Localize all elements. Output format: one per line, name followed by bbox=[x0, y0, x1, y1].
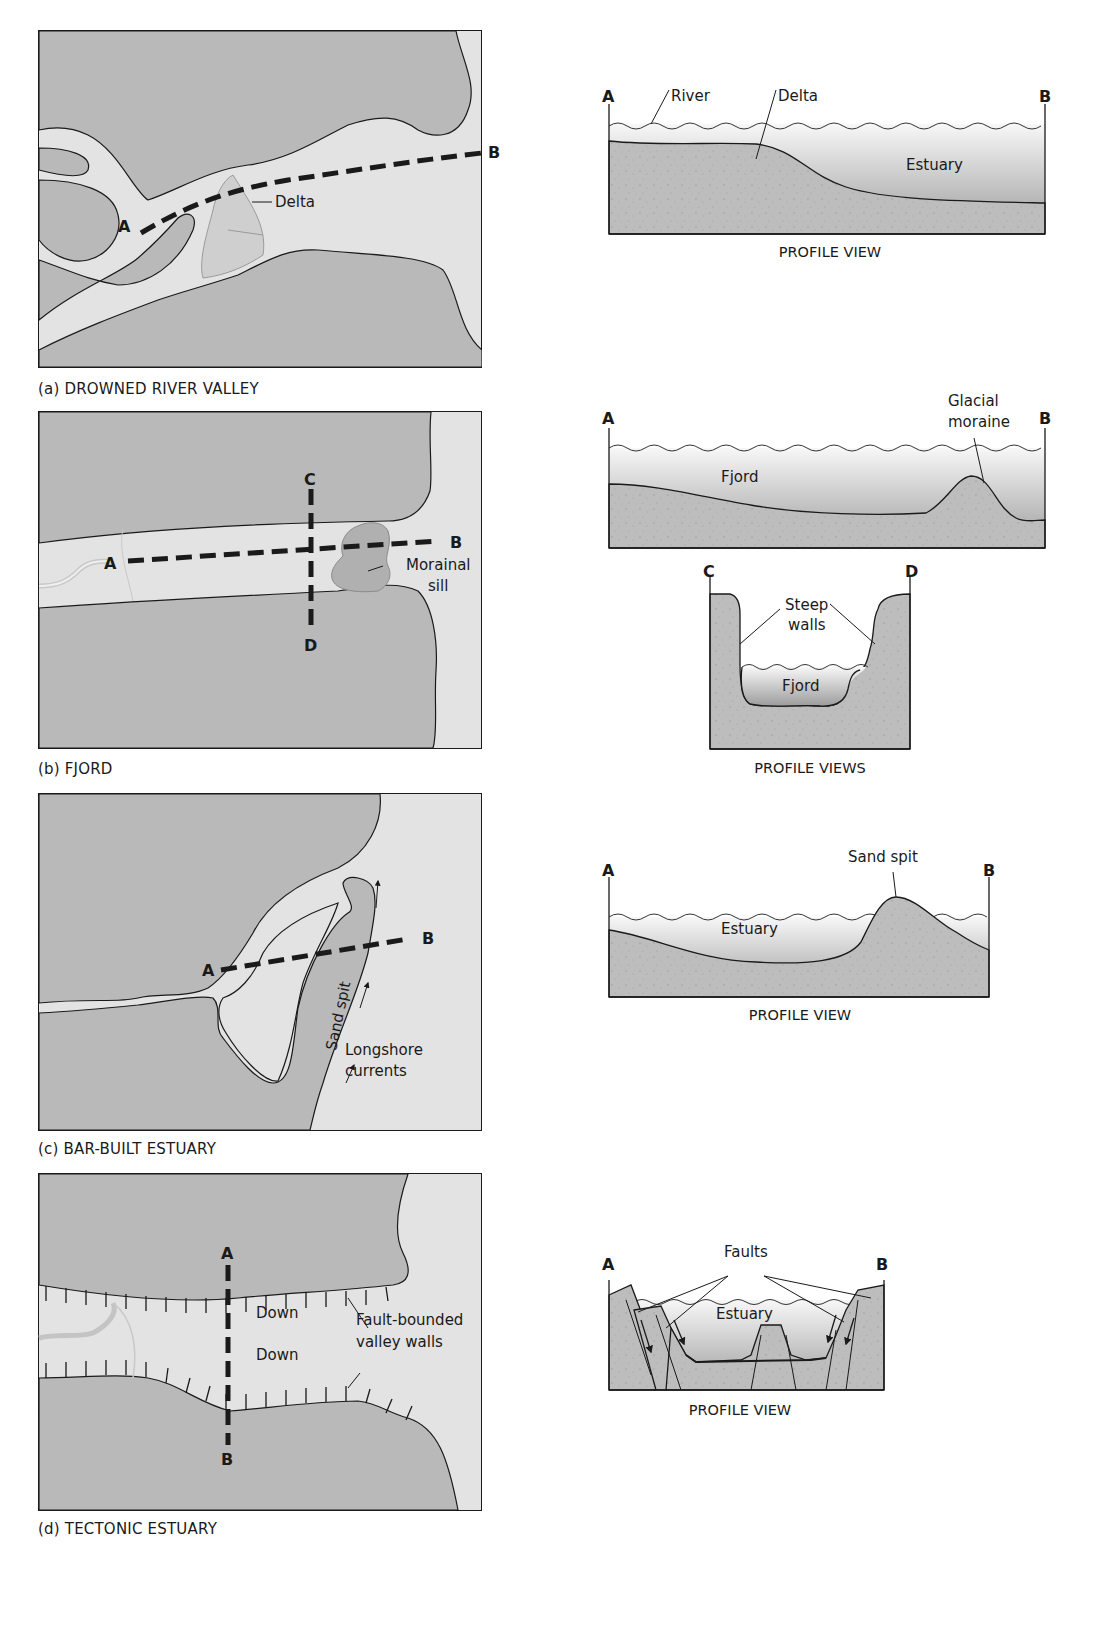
down-label-top: Down bbox=[256, 1304, 299, 1322]
profile-point-b-label: B bbox=[876, 1255, 888, 1274]
profile-delta-label: Delta bbox=[778, 87, 818, 105]
profile-point-a-label: A bbox=[602, 861, 615, 880]
fjord-profile-cd: C D Steep walls Fjord bbox=[700, 564, 930, 754]
fjord-map: A B C D Morainal sill bbox=[38, 411, 482, 749]
drowned-river-valley-profile: A B River Delta Estuary bbox=[596, 84, 1056, 244]
down-label-bottom: Down bbox=[256, 1346, 299, 1364]
bar-built-estuary-map: A B Sand spit Longshore currents bbox=[38, 793, 482, 1131]
fault-bounded-walls-label-2: valley walls bbox=[356, 1333, 443, 1351]
tectonic-estuary-profile: A B Faults Estuary bbox=[596, 1240, 896, 1395]
point-c-label: C bbox=[304, 470, 316, 489]
morainal-sill-label-2: sill bbox=[428, 577, 448, 595]
profile-point-b-label: B bbox=[1039, 87, 1051, 106]
profile-point-b-label: B bbox=[983, 861, 995, 880]
profile-point-a-label: A bbox=[602, 409, 615, 428]
estuary-label: Estuary bbox=[721, 920, 778, 938]
point-b-label: B bbox=[422, 929, 434, 948]
caption-bar-built-estuary: (c) BAR-BUILT ESTUARY bbox=[38, 1140, 216, 1158]
morainal-sill-label: Morainal bbox=[406, 556, 471, 574]
sand-spit-profile-label: Sand spit bbox=[848, 848, 918, 866]
point-d-label: D bbox=[304, 636, 317, 655]
longshore-currents-label-2: currents bbox=[345, 1062, 407, 1080]
point-a-label: A bbox=[221, 1244, 234, 1263]
profile-point-a-label: A bbox=[602, 1255, 615, 1274]
estuary-label: Estuary bbox=[716, 1305, 773, 1323]
point-b-label: B bbox=[221, 1450, 233, 1469]
point-a-label: A bbox=[118, 217, 131, 236]
steep-walls-label-2: walls bbox=[788, 616, 826, 634]
profile-caption-a: PROFILE VIEW bbox=[740, 244, 920, 260]
delta-label: Delta bbox=[275, 193, 315, 211]
profile-caption-b: PROFILE VIEWS bbox=[720, 760, 900, 776]
caption-tectonic-estuary: (d) TECTONIC ESTUARY bbox=[38, 1520, 217, 1538]
profile-caption-c: PROFILE VIEW bbox=[710, 1007, 890, 1023]
profile-caption-d: PROFILE VIEW bbox=[650, 1402, 830, 1418]
river-label: River bbox=[671, 87, 711, 105]
steep-walls-label: Steep bbox=[785, 596, 828, 614]
caption-drowned-river-valley: (a) DROWNED RIVER VALLEY bbox=[38, 380, 259, 398]
faults-label: Faults bbox=[724, 1243, 768, 1261]
fjord-profile-ab: A B Fjord Glacial moraine bbox=[596, 408, 1056, 556]
fjord-label: Fjord bbox=[721, 468, 758, 486]
estuary-label: Estuary bbox=[906, 156, 963, 174]
profile-point-b-label: B bbox=[1039, 409, 1051, 428]
point-d-label: D bbox=[905, 564, 918, 581]
fault-bounded-walls-label: Fault-bounded bbox=[356, 1311, 463, 1329]
caption-fjord: (b) FJORD bbox=[38, 760, 113, 778]
glacial-moraine-label-top: Glacial bbox=[948, 392, 999, 410]
point-b-label: B bbox=[488, 143, 500, 162]
point-a-label: A bbox=[202, 961, 215, 980]
bar-built-estuary-profile: A B Estuary Sand spit bbox=[596, 842, 996, 1002]
longshore-currents-label: Longshore bbox=[345, 1041, 423, 1059]
profile-point-a-label: A bbox=[602, 87, 615, 106]
point-c-label: C bbox=[703, 564, 715, 581]
point-b-label: B bbox=[450, 533, 462, 552]
tectonic-estuary-map: A B Down Down Fault-bounded valley walls bbox=[38, 1173, 482, 1511]
point-a-label: A bbox=[104, 554, 117, 573]
cross-section-fjord-label: Fjord bbox=[782, 677, 819, 695]
drowned-river-valley-map: A Delta bbox=[38, 30, 482, 368]
